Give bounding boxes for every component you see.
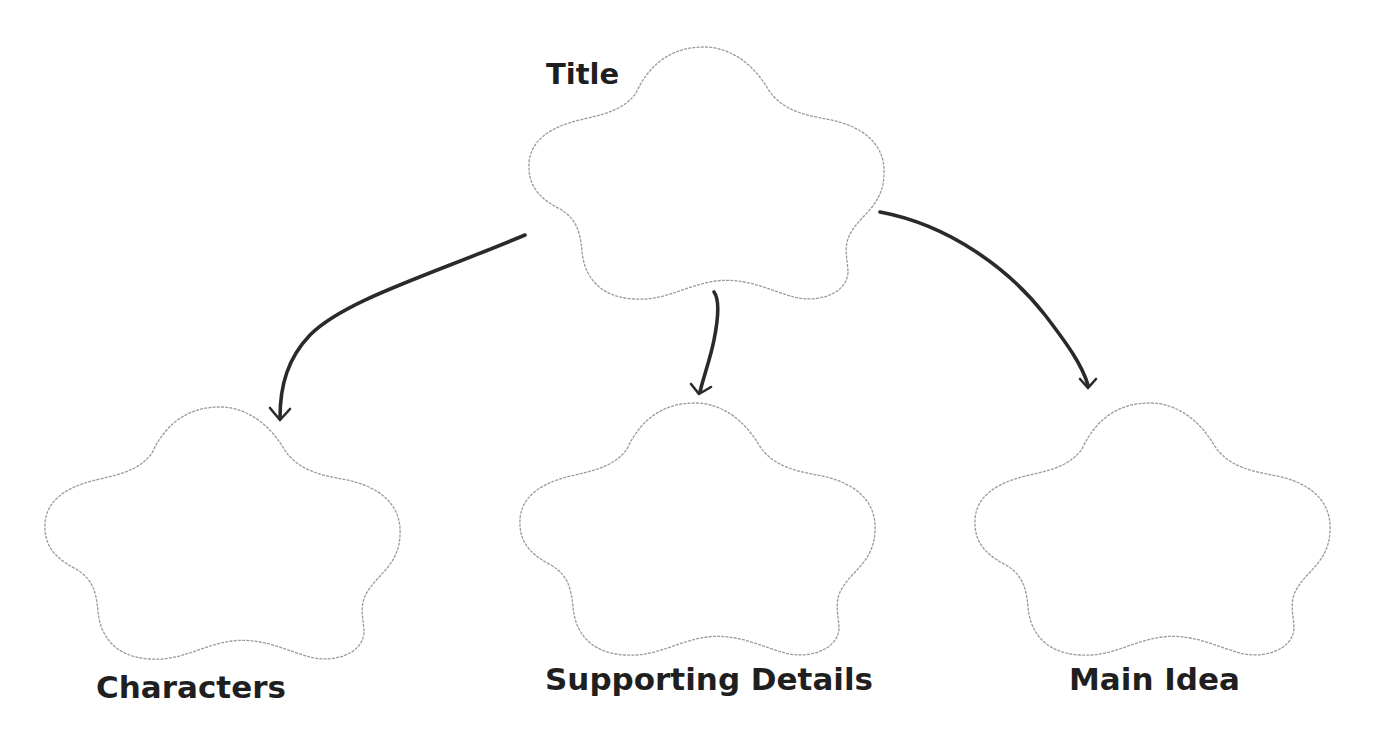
main-idea-label: Main Idea xyxy=(1069,664,1240,695)
arrow-title-to-characters xyxy=(270,235,525,420)
supporting-details-label: Supporting Details xyxy=(545,664,873,695)
supporting-details-cloud[interactable] xyxy=(520,403,875,655)
characters-cloud[interactable] xyxy=(45,407,400,659)
main-idea-cloud[interactable] xyxy=(975,403,1330,655)
arrow-title-to-supporting-details xyxy=(691,292,718,394)
title-label: Title xyxy=(546,60,619,89)
characters-label: Characters xyxy=(96,672,286,703)
story-map-diagram xyxy=(0,0,1377,745)
arrow-title-to-main-idea xyxy=(880,212,1096,388)
